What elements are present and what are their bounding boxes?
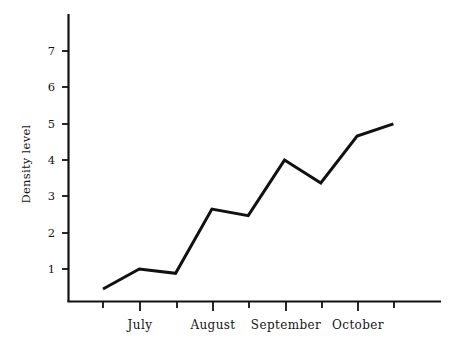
x-tick-label-august: August xyxy=(189,318,235,332)
y-tick-label-1: 1 xyxy=(48,262,55,276)
x-tick-label-september: September xyxy=(251,318,321,332)
y-tick-label-6: 6 xyxy=(48,80,55,94)
x-axis-ticks xyxy=(103,302,394,311)
x-tick-label-october: October xyxy=(332,318,384,332)
y-tick-label-5: 5 xyxy=(48,117,55,131)
chart-canvas: 7 6 5 4 3 2 1 July August September Octo… xyxy=(0,0,453,344)
line-chart: 7 6 5 4 3 2 1 July August September Octo… xyxy=(0,0,453,344)
data-series-line xyxy=(103,124,393,289)
y-tick-label-4: 4 xyxy=(48,153,55,167)
y-tick-label-2: 2 xyxy=(48,226,55,240)
x-tick-label-july: July xyxy=(126,318,153,332)
y-tick-label-7: 7 xyxy=(48,44,55,58)
y-tick-label-3: 3 xyxy=(48,189,55,203)
y-axis-title: Density level xyxy=(19,124,33,203)
